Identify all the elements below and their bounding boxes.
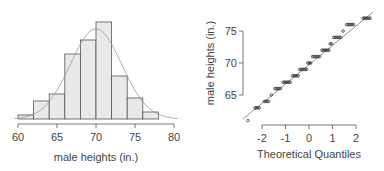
hist-tick-label: 75 <box>129 131 141 143</box>
histogram <box>18 22 158 119</box>
histogram-bar <box>65 54 81 119</box>
hist-tick-label: 60 <box>12 131 24 143</box>
hist-tick-label: 80 <box>168 131 180 143</box>
qq-x-tick-label: 1 <box>329 132 335 144</box>
qq-x-tick-label: -2 <box>257 132 267 144</box>
qq-y-tick-label: 65 <box>225 89 237 101</box>
hist-x-axis: 6065707580 <box>12 124 180 143</box>
hist-tick-label: 65 <box>51 131 63 143</box>
qq-reference-line <box>243 12 373 119</box>
histogram-bar <box>112 76 128 119</box>
histogram-bar <box>34 101 50 119</box>
hist-x-label: male heights (in.) <box>54 151 138 163</box>
qq-y-tick-label: 75 <box>225 25 237 37</box>
qq-x-axis: -2-1012 <box>257 125 359 144</box>
histogram-bar <box>80 40 96 119</box>
qq-points <box>247 17 372 122</box>
qq-y-tick-label: 70 <box>225 57 237 69</box>
hist-tick-label: 70 <box>90 131 102 143</box>
qq-x-tick-label: -1 <box>281 132 291 144</box>
histogram-bar <box>127 98 143 119</box>
qq-x-tick-label: 2 <box>353 132 359 144</box>
qq-y-axis: 657075 <box>225 25 243 101</box>
qq-x-tick-label: 0 <box>306 132 312 144</box>
charts-canvas: 6065707580 male heights (in.) 657075 -2-… <box>0 0 384 171</box>
qq-x-label: Theoretical Quantiles <box>257 148 361 160</box>
qq-y-label: male heights (in.) <box>204 21 216 105</box>
histogram-bar <box>49 94 65 119</box>
histogram-bar <box>96 22 112 119</box>
